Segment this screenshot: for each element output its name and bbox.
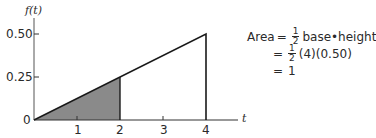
- annotation-line-2: = 1 2 (4)(0.50): [247, 45, 376, 62]
- area-word: Area: [247, 30, 275, 44]
- result-value: 1: [288, 64, 296, 78]
- equals-sign: =: [273, 64, 283, 78]
- base-height-text: base•height: [302, 30, 376, 44]
- fraction-half: 1 2: [288, 44, 296, 63]
- y-tick-label-025: 0.25: [6, 70, 33, 84]
- annotation-line-1: Area = 1 2 base•height: [247, 28, 376, 45]
- fraction-denominator: 2: [289, 54, 295, 63]
- origin-label: 0: [23, 113, 31, 127]
- x-tick-label-1: 1: [74, 123, 82, 137]
- area-annotation: Area = 1 2 base•height = 1 2 (4)(0.50) =…: [247, 28, 376, 79]
- y-tick-label-050: 0.50: [6, 27, 33, 41]
- substitution-text: (4)(0.50): [299, 47, 352, 61]
- y-axis-label: f(t): [24, 4, 42, 17]
- equals-sign: =: [277, 30, 287, 44]
- x-tick-label-4: 4: [202, 123, 210, 137]
- x-axis-label: t: [242, 112, 247, 125]
- equals-sign: =: [273, 47, 283, 61]
- x-tick-label-2: 2: [116, 123, 124, 137]
- x-tick-label-3: 3: [160, 123, 168, 137]
- annotation-line-3: = 1: [247, 62, 376, 79]
